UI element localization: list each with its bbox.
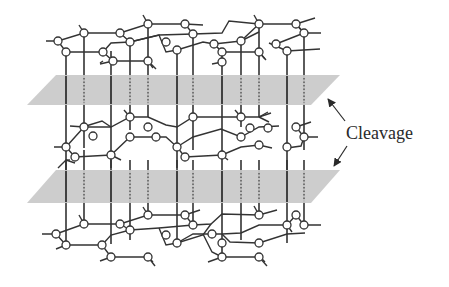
arrow-to-upper-plane — [328, 99, 345, 121]
upper-cleavage-plane — [27, 75, 340, 105]
middle-sheet-atoms — [62, 113, 308, 161]
layered-crystal-cleavage-diagram: Cleavage — [0, 0, 449, 287]
cleavage-label: Cleavage — [346, 123, 413, 143]
arrow-to-lower-plane — [334, 146, 347, 166]
bottom-sheet-atoms — [52, 211, 308, 261]
lower-cleavage-plane — [27, 170, 340, 203]
